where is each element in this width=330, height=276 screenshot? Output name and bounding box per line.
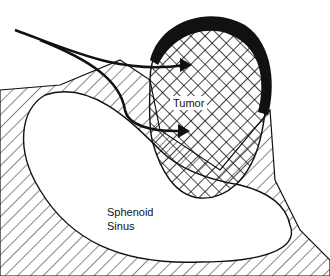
anatomy-drawing (0, 0, 330, 276)
sinus-label-line2: Sinus (107, 220, 135, 232)
tumor-label: Tumor (170, 96, 207, 110)
diagram: Tumor Sphenoid Sinus (0, 0, 330, 276)
sinus-label-line1: Sphenoid (107, 206, 154, 218)
